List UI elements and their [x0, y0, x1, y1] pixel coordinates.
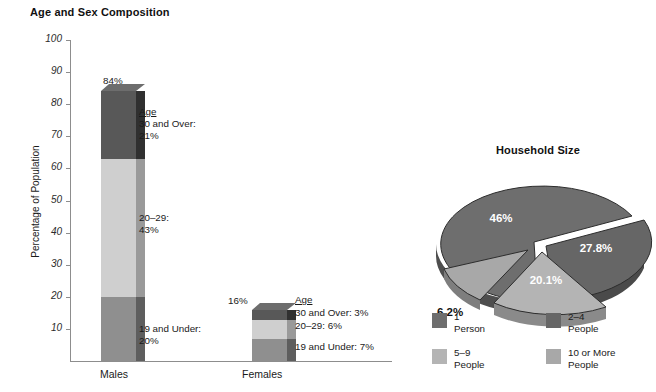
pie-label-2: 27.8% [580, 242, 613, 254]
males-annotation-heading: Age [139, 106, 156, 117]
females-annotation-30-and-over: 30 and Over: 3% [295, 307, 369, 319]
bar-females-segment-20-29 [252, 320, 296, 339]
females-annotation-heading-group: Age [295, 294, 312, 306]
y-axis-line [70, 40, 71, 362]
y-axis-tick [66, 201, 70, 202]
legend-swatch-10-or-more-people [546, 349, 561, 364]
segment-face [101, 91, 136, 159]
bar-chart-title: Age and Sex Composition [30, 6, 170, 18]
males-annotation-19-and-under: 19 and Under: [139, 323, 201, 335]
y-axis-tick [66, 265, 70, 266]
y-axis-tick-label: 90 [30, 65, 62, 76]
y-axis-tick [66, 329, 70, 330]
y-axis-tick-label: 80 [30, 97, 62, 108]
legend-swatch-1-person [432, 313, 447, 328]
bar-females-total-label: 16% [228, 295, 248, 306]
y-axis-tick-label: 40 [30, 226, 62, 237]
segment-face [252, 320, 287, 339]
y-axis-tick-label: 50 [30, 194, 62, 205]
bar-females-segment-19-and-under [252, 339, 296, 361]
males-annotation-heading-group: Age [139, 106, 156, 118]
age-sex-bar-chart: Age and Sex Composition Percentage of Po… [0, 0, 400, 392]
x-axis-line [70, 361, 392, 362]
pie-legend: 1Person 2–4People 5–9People 10 or MorePe… [432, 311, 656, 385]
males-annotation-30-and-over: 30 and Over: [139, 118, 196, 130]
y-axis-tick-label: 70 [30, 129, 62, 140]
males-annotation-30-and-over-pct: 21% [139, 130, 159, 142]
legend-item-1-person[interactable]: 1Person [432, 311, 542, 345]
y-axis-tick-label: 60 [30, 161, 62, 172]
legend-label-10-or-more-people: 10 or MorePeople [568, 347, 615, 371]
legend-item-10-or-more-people[interactable]: 10 or MorePeople [546, 347, 656, 381]
y-axis-tick-label: 30 [30, 258, 62, 269]
males-annotation-20-29: 20–29: [139, 212, 169, 224]
pie-chart-title: Household Size [420, 144, 656, 156]
bar-females-top-face [252, 303, 296, 313]
legend-item-2-4-people[interactable]: 2–4People [546, 311, 656, 345]
bar-males-total-label: 84% [103, 75, 123, 86]
legend-item-5-9-people[interactable]: 5–9People [432, 347, 542, 381]
legend-label-5-9-people: 5–9People [454, 347, 485, 371]
y-axis-tick [66, 233, 70, 234]
legend-label-2-4-people: 2–4People [568, 311, 599, 335]
bar-females [252, 310, 296, 361]
males-annotation-20-29-pct: 43% [139, 224, 159, 236]
y-axis-tick [66, 297, 70, 298]
segment-face [101, 297, 136, 361]
y-axis-tick-label: 10 [30, 322, 62, 333]
females-annotation-heading: Age [295, 294, 312, 305]
y-axis-tick-label: 20 [30, 290, 62, 301]
x-axis-label-females: Females [242, 368, 282, 380]
segment-face [101, 159, 136, 297]
x-axis-label-males: Males [100, 368, 128, 380]
y-axis-tick [66, 136, 70, 137]
females-annotation-20-29: 20–29: 6% [295, 320, 342, 332]
pie-graphic: 46% 27.8% 20.1% 6.2% [420, 160, 656, 330]
y-axis-tick [66, 72, 70, 73]
legend-swatch-5-9-people [432, 349, 447, 364]
pie-label-1: 46% [489, 212, 512, 224]
segment-face [252, 339, 287, 361]
y-axis-tick [66, 40, 70, 41]
pie-label-3: 20.1% [530, 274, 563, 286]
legend-label-1-person: 1Person [454, 311, 485, 335]
y-axis-tick [66, 168, 70, 169]
y-axis-tick [66, 104, 70, 105]
females-annotation-19-and-under: 19 and Under: 7% [295, 341, 374, 353]
males-annotation-19-and-under-pct: 20% [139, 335, 159, 347]
legend-swatch-2-4-people [546, 313, 561, 328]
y-axis-tick-label: 100 [30, 33, 62, 44]
